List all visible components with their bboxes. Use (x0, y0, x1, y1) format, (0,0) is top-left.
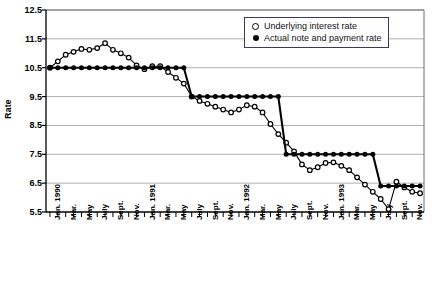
chart-legend: Underlying interest rate Actual note and… (244, 17, 389, 48)
legend-entry-actual: Actual note and payment rate (250, 32, 382, 44)
open-circle-icon (250, 20, 261, 32)
legend-label-underlying: Underlying interest rate (264, 20, 357, 32)
filled-circle-icon (250, 32, 261, 44)
interest-rate-chart: Rate 5.56.57.58.59.510.511.512.5 Jan. 19… (0, 0, 434, 282)
legend-label-actual: Actual note and payment rate (264, 32, 382, 44)
legend-entry-underlying: Underlying interest rate (250, 20, 382, 32)
